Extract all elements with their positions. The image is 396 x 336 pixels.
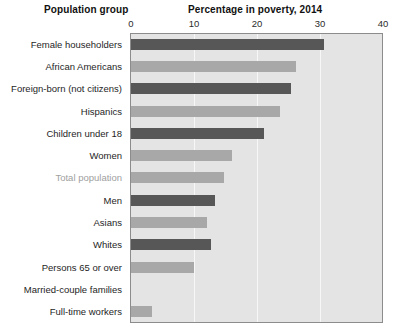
chart-title: Percentage in poverty, 2014 — [188, 4, 322, 15]
bar-row: Total population — [0, 167, 396, 189]
bar — [131, 61, 296, 72]
x-axis-tick-40: 40 — [378, 18, 389, 29]
category-label: Children under 18 — [0, 128, 126, 139]
bar-row: African Americans — [0, 55, 396, 77]
bar-row: Children under 18 — [0, 122, 396, 144]
category-label: African Americans — [0, 61, 126, 72]
category-label: Asians — [0, 217, 126, 228]
bar — [131, 106, 280, 117]
bar — [131, 195, 215, 206]
category-label: Hispanics — [0, 106, 126, 117]
bar — [131, 150, 232, 161]
category-label: Married-couple families — [0, 284, 126, 295]
bar — [131, 39, 324, 50]
category-label: Men — [0, 195, 126, 206]
bar — [131, 217, 207, 228]
bar — [131, 262, 194, 273]
bar-row: Asians — [0, 211, 396, 233]
x-axis-tick-30: 30 — [315, 18, 326, 29]
x-axis-tick-20: 20 — [252, 18, 263, 29]
bar-row: Whites — [0, 234, 396, 256]
bar-row: Persons 65 or over — [0, 256, 396, 278]
bar-row: Female householders — [0, 33, 396, 55]
poverty-bar-chart: Population group Percentage in poverty, … — [0, 0, 396, 336]
bar — [131, 172, 224, 183]
bar — [131, 239, 211, 250]
x-axis-tick-10: 10 — [189, 18, 200, 29]
bar — [131, 83, 291, 94]
bar-row: Married-couple families — [0, 278, 396, 300]
category-label: Total population — [0, 172, 126, 183]
bar-row: Foreign-born (not citizens) — [0, 78, 396, 100]
category-label: Whites — [0, 239, 126, 250]
category-label: Foreign-born (not citizens) — [0, 83, 126, 94]
x-axis-tick-labels: 010203040 — [0, 18, 396, 32]
bar-row: Hispanics — [0, 100, 396, 122]
bar-row: Women — [0, 145, 396, 167]
category-label: Women — [0, 150, 126, 161]
bar — [131, 128, 264, 139]
category-label: Persons 65 or over — [0, 262, 126, 273]
bar-row: Men — [0, 189, 396, 211]
category-label: Female householders — [0, 39, 126, 50]
bar-row: Full-time workers — [0, 301, 396, 323]
x-axis-tick-0: 0 — [128, 18, 133, 29]
bar-rows: Female householdersAfrican AmericansFore… — [0, 33, 396, 323]
category-label: Full-time workers — [0, 306, 126, 317]
bar — [131, 306, 152, 317]
population-group-title: Population group — [44, 4, 128, 15]
